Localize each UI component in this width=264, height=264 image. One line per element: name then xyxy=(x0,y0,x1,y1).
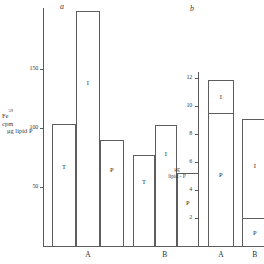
panel-b-tick-10 xyxy=(195,106,199,107)
panel-b-tick-6 xyxy=(195,162,199,163)
panel-b-tick-12 xyxy=(195,78,199,79)
panel-b-group-label-A: A xyxy=(209,250,233,259)
panel-a-bar-A-P: P xyxy=(100,140,124,247)
figure-canvas: a 50 100 150 Fe59 cpm μg lipid P T I xyxy=(0,0,264,264)
panel-b-seg-A-P: P xyxy=(208,113,234,247)
panel-b-seg-A-I-label: I xyxy=(209,93,233,100)
panel-b-tick-4 xyxy=(195,190,199,191)
panel-b-letter: b xyxy=(190,4,194,13)
panel-b-y-title-line2: lipid - P xyxy=(168,173,186,179)
panel-b-tick-label-2: 2 xyxy=(172,214,192,220)
panel-a-y-title-denominator: μg lipid P xyxy=(2,127,33,134)
panel-a-y-title-numerator: cpm xyxy=(2,120,33,127)
panel-a-bar-A-I-label: I xyxy=(77,79,99,86)
panel-a-bar-A-P-label: P xyxy=(101,166,123,173)
panel-a-y-title-fraction: cpm μg lipid P xyxy=(2,119,33,137)
panel-a-y-axis xyxy=(43,8,44,246)
panel-a-tick-50 xyxy=(40,187,44,188)
panel-a-tick-label-150: 150 xyxy=(14,65,38,71)
panel-b-tick-label-12: 12 xyxy=(172,74,192,80)
panel-a-bar-A-I: I xyxy=(76,11,100,247)
panel-a-bar-A-T: T xyxy=(52,124,76,247)
panel-b-y-axis xyxy=(198,72,199,246)
panel-b-tick-8 xyxy=(195,134,199,135)
panel-b-tick-label-8: 8 xyxy=(172,130,192,136)
panel-a: a 50 100 150 Fe59 cpm μg lipid P T I xyxy=(0,0,164,264)
panel-a-y-title-fe: Fe xyxy=(2,112,9,119)
panel-a-bar-B-T: T xyxy=(133,155,155,247)
panel-a-bar-B-T-label: T xyxy=(134,178,154,185)
panel-a-bar-A-T-label: T xyxy=(53,163,75,170)
panel-b-tick-label-6: 6 xyxy=(172,158,192,164)
panel-a-tick-label-50: 50 xyxy=(14,183,38,189)
panel-b: b 2 4 6 8 10 12 μg lipid - P P I xyxy=(164,0,264,264)
panel-b-tick-2 xyxy=(195,218,199,219)
panel-b-y-title-line1: μg xyxy=(174,166,180,172)
panel-a-tick-100 xyxy=(40,128,44,129)
panel-b-seg-B-I-label: I xyxy=(243,162,264,169)
panel-a-tick-150 xyxy=(40,69,44,70)
panel-b-seg-B-P-label: P xyxy=(243,229,264,236)
panel-b-seg-B-P: P xyxy=(242,218,264,247)
panel-b-group-label-B: B xyxy=(243,250,264,259)
panel-a-letter: a xyxy=(60,2,64,11)
panel-b-y-title: μg lipid - P xyxy=(160,166,194,179)
panel-b-tick-label-10: 10 xyxy=(172,102,192,108)
panel-b-tick-label-4: 4 xyxy=(172,186,192,192)
panel-a-y-title-superscript: 59 xyxy=(9,108,14,113)
panel-b-seg-A-I: I xyxy=(208,80,234,114)
panel-b-seg-B-I: I xyxy=(242,119,264,219)
panel-b-seg-A-P-label: P xyxy=(209,171,233,178)
panel-a-group-label-A: A xyxy=(66,250,110,259)
